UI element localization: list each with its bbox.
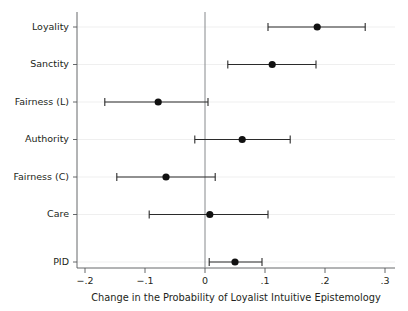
y-axis-category-label: Authority — [25, 133, 69, 144]
estimate-point — [162, 173, 169, 180]
estimate-point — [314, 23, 321, 30]
estimate-point — [231, 258, 238, 265]
plot-canvas: LoyalitySanctityFairness (L)AuthorityFai… — [0, 0, 408, 311]
x-tick-label: 0 — [202, 275, 208, 286]
y-axis-category-label: Loyality — [32, 21, 69, 32]
points-group — [155, 23, 321, 265]
x-tick-label: .2 — [320, 275, 329, 286]
tick-labels-group: −.2−.10.1.2.3 — [76, 275, 389, 286]
x-tick-label: .3 — [380, 275, 389, 286]
coefficient-plot-figure: LoyalitySanctityFairness (L)AuthorityFai… — [0, 0, 408, 311]
y-axis-category-label: Sanctity — [30, 58, 69, 69]
gridlines-group — [77, 27, 395, 262]
estimate-point — [239, 136, 246, 143]
y-axis-category-label: Care — [47, 208, 69, 219]
category-labels-group: LoyalitySanctityFairness (L)AuthorityFai… — [13, 21, 69, 267]
intervals-group — [105, 23, 365, 266]
estimate-point — [206, 211, 213, 218]
x-tick-label: .1 — [260, 275, 269, 286]
estimate-point — [269, 61, 276, 68]
x-axis-caption: Change in the Probability of Loyalist In… — [91, 292, 381, 303]
axis-group — [73, 12, 395, 273]
y-axis-category-label: Fairness (L) — [15, 96, 69, 107]
estimate-point — [155, 98, 162, 105]
y-axis-category-label: Fairness (C) — [13, 171, 69, 182]
y-axis-category-label: PID — [53, 256, 69, 267]
x-tick-label: −.2 — [76, 275, 93, 286]
x-tick-label: −.1 — [136, 275, 153, 286]
